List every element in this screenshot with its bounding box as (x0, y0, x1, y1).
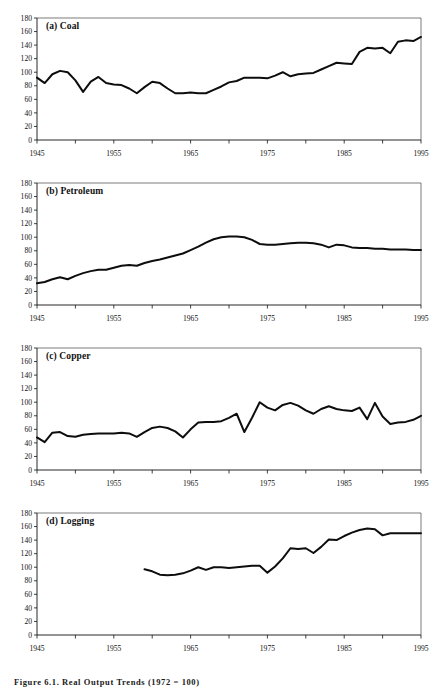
x-tick-label: 1955 (106, 149, 121, 158)
panel-title-coal: (a) Coal (46, 21, 79, 31)
plot-frame (37, 183, 421, 305)
x-tick-label: 1965 (183, 314, 198, 323)
data-series-coal (37, 37, 421, 93)
chart-panel-coal: 0204060801001201401601801945195519651975… (0, 0, 448, 165)
y-tick-label: 0 (28, 136, 32, 145)
x-tick-label: 1975 (260, 479, 275, 488)
y-tick-label: 120 (21, 219, 33, 228)
x-tick-label: 1965 (183, 149, 198, 158)
y-tick-label: 40 (24, 604, 32, 613)
x-tick-label: 1945 (29, 149, 44, 158)
data-series-copper (37, 402, 421, 442)
plot-axes (37, 348, 421, 470)
y-tick-label: 80 (24, 81, 32, 90)
y-tick-label: 120 (21, 54, 33, 63)
x-tick-label: 1995 (413, 149, 428, 158)
figure-caption: Figure 6.1. Real Output Trends (1972 = 1… (14, 677, 200, 687)
x-tick-label: 1945 (29, 314, 44, 323)
y-tick-label: 180 (21, 344, 33, 353)
x-tick-label: 1975 (260, 314, 275, 323)
chart-panel-logging: 0204060801001201401601801945195519651975… (0, 495, 448, 660)
y-tick-label: 100 (21, 563, 33, 572)
y-tick-label: 20 (24, 617, 32, 626)
x-tick-label: 1985 (337, 644, 352, 653)
plot-frame (37, 513, 421, 635)
data-series-logging (145, 529, 421, 576)
panel-title-copper: (c) Copper (46, 351, 91, 361)
x-tick-label: 1965 (183, 644, 198, 653)
y-tick-label: 80 (24, 576, 32, 585)
y-tick-label: 0 (28, 631, 32, 640)
x-tick-label: 1985 (337, 149, 352, 158)
plot-axes (37, 183, 421, 305)
x-tick-label: 1955 (106, 314, 121, 323)
y-tick-label: 160 (21, 522, 33, 531)
y-tick-label: 180 (21, 509, 33, 518)
y-tick-label: 140 (21, 371, 33, 380)
y-tick-label: 180 (21, 14, 33, 23)
chart-panel-petroleum: 0204060801001201401601801945195519651975… (0, 165, 448, 330)
y-tick-label: 60 (24, 95, 32, 104)
y-tick-label: 40 (24, 109, 32, 118)
x-tick-label: 1965 (183, 479, 198, 488)
plot-frame (37, 348, 421, 470)
y-tick-label: 120 (21, 384, 33, 393)
y-tick-label: 40 (24, 274, 32, 283)
x-tick-label: 1955 (106, 644, 121, 653)
y-tick-label: 140 (21, 206, 33, 215)
y-tick-label: 80 (24, 411, 32, 420)
y-tick-label: 100 (21, 68, 33, 77)
chart-panel-copper: 0204060801001201401601801945195519651975… (0, 330, 448, 495)
y-tick-label: 60 (24, 425, 32, 434)
x-tick-label: 1975 (260, 149, 275, 158)
y-tick-label: 120 (21, 549, 33, 558)
x-tick-label: 1985 (337, 314, 352, 323)
y-tick-label: 80 (24, 246, 32, 255)
y-tick-label: 20 (24, 287, 32, 296)
y-tick-label: 100 (21, 398, 33, 407)
x-tick-label: 1995 (413, 314, 428, 323)
y-tick-label: 0 (28, 301, 32, 310)
panel-title-petroleum: (b) Petroleum (46, 186, 103, 196)
x-tick-label: 1985 (337, 479, 352, 488)
x-tick-label: 1955 (106, 479, 121, 488)
y-tick-label: 140 (21, 536, 33, 545)
y-tick-label: 180 (21, 179, 33, 188)
x-tick-label: 1995 (413, 644, 428, 653)
data-series-petroleum (37, 237, 421, 284)
y-tick-label: 0 (28, 466, 32, 475)
x-tick-label: 1945 (29, 479, 44, 488)
x-tick-label: 1945 (29, 644, 44, 653)
x-tick-label: 1995 (413, 479, 428, 488)
y-tick-label: 160 (21, 27, 33, 36)
x-tick-label: 1975 (260, 644, 275, 653)
y-tick-label: 160 (21, 192, 33, 201)
y-tick-label: 140 (21, 41, 33, 50)
y-tick-label: 60 (24, 260, 32, 269)
y-tick-label: 40 (24, 439, 32, 448)
y-tick-label: 20 (24, 122, 32, 131)
y-tick-label: 100 (21, 233, 33, 242)
y-tick-label: 60 (24, 590, 32, 599)
panel-title-logging: (d) Logging (46, 516, 94, 526)
plot-axes (37, 513, 421, 635)
y-tick-label: 20 (24, 452, 32, 461)
y-tick-label: 160 (21, 357, 33, 366)
